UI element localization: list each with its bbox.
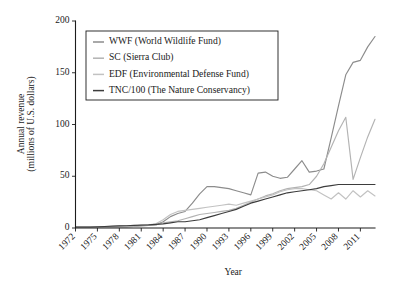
x-tick-label: 2008: [319, 231, 340, 252]
series-line-tnc-100: [76, 185, 376, 227]
x-axis-title: Year: [224, 267, 242, 277]
y-axis-tick-labels: 050100150200: [55, 15, 70, 232]
x-tick-label: 1984: [144, 231, 165, 252]
y-tick-label: 200: [55, 15, 70, 25]
x-tick-label: 1978: [100, 231, 121, 252]
x-tick-label: 2005: [297, 231, 318, 252]
x-tick-label: 1999: [254, 231, 275, 252]
x-tick-label: 1981: [122, 231, 143, 252]
y-tick-label: 100: [55, 119, 70, 129]
x-tick-label: 1987: [166, 231, 187, 252]
line-chart: 050100150200 197219751978198119841987199…: [0, 0, 393, 288]
legend-label-sc: SC (Sierra Club): [109, 51, 174, 63]
series-line-sc: [76, 117, 376, 227]
x-tick-label: 2002: [276, 231, 297, 252]
y-tick-label: 0: [65, 222, 70, 232]
chart-figure: 050100150200 197219751978198119841987199…: [0, 0, 393, 288]
y-axis-title-line1: Annual revenue: [16, 94, 26, 154]
legend-label-wwf: WWF (World Wildlife Fund): [109, 35, 221, 47]
y-axis-title-line2: (millions of U.S. dollars): [26, 76, 37, 171]
y-tick-label: 150: [55, 67, 70, 77]
x-tick-label: 1990: [188, 231, 209, 252]
x-tick-label: 2011: [342, 231, 362, 251]
x-tick-label: 1996: [232, 231, 253, 252]
x-axis-tick-labels: 1972197519781981198419871990199319961999…: [56, 231, 362, 252]
x-tick-label: 1993: [210, 231, 231, 252]
x-tick-label: 1972: [56, 231, 77, 252]
x-tick-label: 1975: [78, 231, 99, 252]
series-line-edf: [76, 189, 376, 228]
chart-legend: WWF (World Wildlife Fund)SC (Sierra Club…: [86, 31, 278, 100]
y-tick-label: 50: [60, 170, 70, 180]
legend-label-tnc-100: TNC/100 (The Nature Conservancy): [109, 84, 250, 96]
legend-label-edf: EDF (Environmental Defense Fund): [109, 68, 249, 80]
